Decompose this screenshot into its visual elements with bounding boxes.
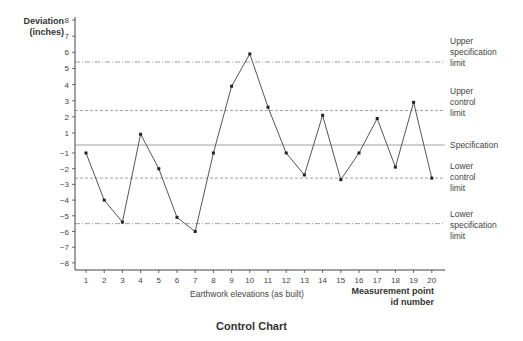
y-tick-label: 7 <box>65 32 70 41</box>
data-point <box>358 152 361 155</box>
data-point <box>230 85 233 88</box>
y-tick-label: −6 <box>60 228 70 237</box>
data-point <box>430 177 433 180</box>
data-point <box>248 52 251 55</box>
x-tick-label: 8 <box>211 276 216 285</box>
data-point <box>303 173 306 176</box>
label-upper-control-limit: Uppercontrollimit <box>450 86 476 119</box>
x-axis-unit-line2: id number <box>351 297 434 308</box>
reference-label-line: specification <box>450 220 497 231</box>
data-point <box>194 230 197 233</box>
y-tick-label: −1 <box>60 149 70 158</box>
reference-label-line: limit <box>450 58 497 69</box>
chart-title-wrap: Control Chart <box>0 316 523 334</box>
y-axis-label: Deviation (inches) <box>8 16 64 38</box>
x-tick-label: 10 <box>245 276 254 285</box>
data-point <box>139 133 142 136</box>
y-tick-label: 3 <box>65 97 70 106</box>
x-tick-label: 18 <box>391 276 400 285</box>
data-point <box>376 117 379 120</box>
data-point <box>267 106 270 109</box>
data-point <box>121 221 124 224</box>
x-tick-label: 3 <box>120 276 125 285</box>
reference-label-line: Specification <box>450 140 498 151</box>
data-point <box>212 152 215 155</box>
reference-label-line: Upper <box>450 86 476 97</box>
data-point <box>85 152 88 155</box>
y-tick-label: −5 <box>60 212 70 221</box>
y-tick-label: 4 <box>65 81 70 90</box>
data-point <box>157 167 160 170</box>
x-tick-label: 12 <box>282 276 291 285</box>
reference-label-line: specification <box>450 47 497 58</box>
reference-label-line: Lower <box>450 209 497 220</box>
reference-label-line: limit <box>450 183 476 194</box>
x-tick-label: 16 <box>355 276 364 285</box>
x-tick-label: 19 <box>409 276 418 285</box>
x-tick-label: 1 <box>84 276 89 285</box>
data-point <box>339 178 342 181</box>
chart-title: Control Chart <box>216 320 287 332</box>
y-tick-label: 8 <box>65 16 70 25</box>
x-tick-label: 7 <box>193 276 198 285</box>
x-tick-label: 2 <box>102 276 107 285</box>
y-tick-label: −7 <box>60 243 70 252</box>
data-line <box>86 54 432 232</box>
reference-label-line: control <box>450 97 476 108</box>
label-lower-control-limit: Lowercontrollimit <box>450 161 476 194</box>
data-point <box>321 114 324 117</box>
x-tick-label: 9 <box>229 276 234 285</box>
reference-label-line: limit <box>450 231 497 242</box>
data-point <box>285 152 288 155</box>
data-point <box>103 199 106 202</box>
y-tick-label: 1 <box>65 129 70 138</box>
reference-label-line: Upper <box>450 36 497 47</box>
x-axis-unit-label: Measurement point id number <box>351 286 434 308</box>
y-tick-label: 6 <box>65 48 70 57</box>
x-tick-label: 11 <box>264 276 273 285</box>
label-upper-specification-limit: Upperspecificationlimit <box>450 36 497 69</box>
y-tick-label: −3 <box>60 180 70 189</box>
y-tick-label: 5 <box>65 64 70 73</box>
data-point <box>176 216 179 219</box>
reference-label-line: limit <box>450 108 476 119</box>
x-axis-label: Earthwork elevations (as built) <box>190 289 304 299</box>
x-tick-label: 15 <box>336 276 345 285</box>
y-axis-label-line2: (inches) <box>8 27 64 38</box>
y-tick-label: −8 <box>60 259 70 268</box>
x-tick-label: 20 <box>427 276 436 285</box>
x-tick-label: 6 <box>175 276 180 285</box>
y-axis-label-line1: Deviation <box>8 16 64 27</box>
reference-label-line: Lower <box>450 161 476 172</box>
x-tick-label: 5 <box>157 276 162 285</box>
y-tick-label: 2 <box>65 113 70 122</box>
x-axis-unit-line1: Measurement point <box>351 286 434 297</box>
label-lower-specification-limit: Lowerspecificationlimit <box>450 209 497 242</box>
y-tick-label: −2 <box>60 165 70 174</box>
x-tick-label: 4 <box>138 276 143 285</box>
label-specification: Specification <box>450 140 498 151</box>
x-tick-label: 14 <box>318 276 327 285</box>
x-tick-label: 17 <box>373 276 382 285</box>
data-point <box>394 166 397 169</box>
reference-label-line: control <box>450 172 476 183</box>
y-tick-label: −4 <box>60 196 70 205</box>
x-tick-label: 13 <box>300 276 309 285</box>
data-point <box>412 101 415 104</box>
